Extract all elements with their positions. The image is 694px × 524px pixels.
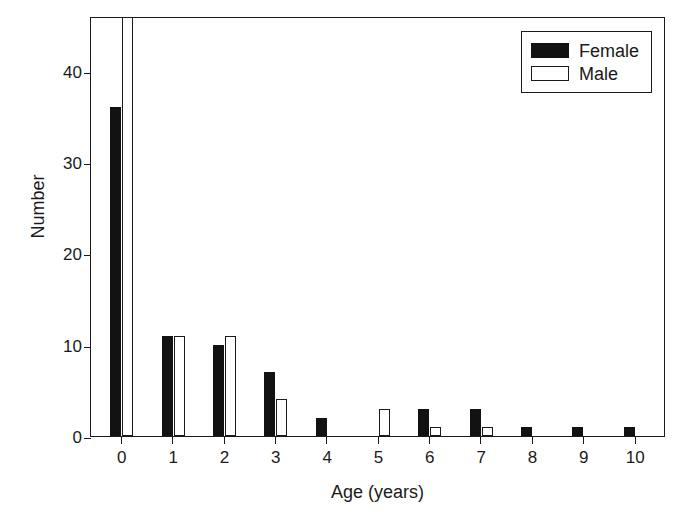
y-tick-mark	[84, 347, 91, 348]
bar-female-0	[110, 107, 121, 436]
x-tick-label: 10	[626, 448, 645, 468]
y-tick-label: 30	[63, 154, 82, 174]
x-tick-label: 8	[528, 448, 537, 468]
x-tick-mark	[275, 436, 276, 444]
plot-area: 010203040 012345678910 Female Male	[90, 17, 665, 437]
x-tick-mark	[224, 436, 225, 444]
bar-female-9	[572, 427, 583, 436]
y-tick-mark	[84, 73, 91, 74]
x-tick-mark	[635, 436, 636, 444]
x-tick-label: 2	[220, 448, 229, 468]
bar-female-2	[213, 345, 224, 436]
x-tick-mark	[583, 436, 584, 444]
bar-male-6	[430, 427, 441, 436]
x-tick-label: 0	[117, 448, 126, 468]
x-tick-label: 4	[322, 448, 331, 468]
bar-male-1	[174, 336, 185, 436]
bar-female-3	[264, 372, 275, 436]
x-tick-mark	[326, 436, 327, 444]
bar-male-7	[482, 427, 493, 436]
bar-female-8	[521, 427, 532, 436]
legend-label-female: Female	[579, 42, 639, 60]
x-tick-mark	[121, 436, 122, 444]
y-tick-mark	[84, 438, 91, 439]
legend-item-female: Female	[531, 39, 639, 62]
x-tick-mark	[172, 436, 173, 444]
x-tick-label: 9	[579, 448, 588, 468]
x-tick-mark	[429, 436, 430, 444]
y-axis-title: Number	[28, 147, 49, 267]
x-tick-label: 1	[168, 448, 177, 468]
x-tick-label: 7	[476, 448, 485, 468]
x-tick-label: 3	[271, 448, 280, 468]
chart-legend: Female Male	[521, 31, 652, 93]
bar-female-10	[624, 427, 635, 436]
x-tick-mark	[378, 436, 379, 444]
bar-male-2	[225, 336, 236, 436]
x-tick-mark	[532, 436, 533, 444]
x-tick-label: 6	[425, 448, 434, 468]
legend-label-male: Male	[579, 65, 618, 83]
y-tick-label: 20	[63, 245, 82, 265]
y-tick-mark	[84, 255, 91, 256]
y-tick-label: 40	[63, 63, 82, 83]
bar-male-0	[122, 18, 133, 436]
bar-female-1	[162, 336, 173, 436]
y-tick-mark	[84, 164, 91, 165]
legend-item-male: Male	[531, 62, 639, 85]
x-tick-mark	[480, 436, 481, 444]
bar-male-3	[276, 399, 287, 436]
y-tick-label: 10	[63, 337, 82, 357]
legend-swatch-female	[531, 43, 569, 58]
legend-swatch-male	[531, 66, 569, 81]
figure-root: 010203040 012345678910 Female Male Age (…	[0, 0, 694, 524]
bar-female-6	[418, 409, 429, 436]
bar-female-7	[470, 409, 481, 436]
y-tick-label: 0	[73, 428, 82, 448]
x-tick-label: 5	[374, 448, 383, 468]
bar-female-4	[316, 418, 327, 436]
x-axis-title: Age (years)	[90, 482, 665, 503]
bar-male-5	[379, 409, 390, 436]
